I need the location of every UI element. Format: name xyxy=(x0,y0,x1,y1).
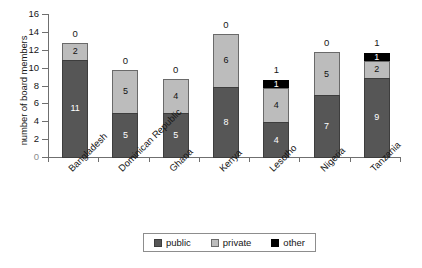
legend-label: other xyxy=(283,237,305,248)
y-tick-8: 8 xyxy=(42,86,48,87)
bar-top-label: 0 xyxy=(163,64,189,75)
y-tick-label: 16 xyxy=(28,8,39,19)
y-tick-14: 14 xyxy=(42,32,48,33)
legend-swatch-private xyxy=(211,239,219,247)
legend-item-other[interactable]: other xyxy=(271,237,305,248)
y-tick-label: 4 xyxy=(34,115,39,126)
bar-top-label: 0 xyxy=(314,37,340,48)
y-tick-16: 16 xyxy=(42,14,48,15)
y-tick-6: 6 xyxy=(42,103,48,104)
bar-segment-value: 5 xyxy=(173,131,178,140)
y-tick-10: 10 xyxy=(42,68,48,69)
legend-swatch-other xyxy=(271,239,279,247)
x-tick xyxy=(249,157,250,162)
bar-segment-private[interactable]: 5 xyxy=(314,52,340,97)
bar-nigeria[interactable]: 57 xyxy=(314,52,340,157)
bar-segment-value: 4 xyxy=(274,101,279,110)
y-tick-2: 2 xyxy=(42,139,48,140)
x-tick xyxy=(350,157,351,162)
bar-top-label: 0 xyxy=(62,28,88,39)
bar-top-label: 0 xyxy=(213,19,239,30)
x-tick xyxy=(149,157,150,162)
bar-segment-value: 5 xyxy=(324,70,329,79)
y-axis-line xyxy=(48,14,49,157)
bar-top-label: 0 xyxy=(112,55,138,66)
bar-segment-value: 5 xyxy=(123,87,128,96)
x-tick xyxy=(400,157,401,162)
bar-lesotho[interactable]: 144 xyxy=(263,80,289,157)
bar-segment-private[interactable]: 2 xyxy=(62,43,88,61)
x-tick xyxy=(48,157,49,162)
legend-swatch-public xyxy=(154,239,162,247)
legend-item-public[interactable]: public xyxy=(154,237,191,248)
chart-legend: publicprivateother xyxy=(143,233,316,252)
bar-segment-public[interactable]: 11 xyxy=(62,60,88,158)
bar-segment-value: 8 xyxy=(223,118,228,127)
y-tick-label: 6 xyxy=(34,97,39,108)
bar-segment-private[interactable]: 4 xyxy=(263,88,289,124)
bar-segment-value: 4 xyxy=(274,136,279,145)
bar-kenya[interactable]: 68 xyxy=(213,34,239,157)
y-axis-title: number of board members xyxy=(18,21,29,161)
legend-label: public xyxy=(166,237,191,248)
y-tick-4: 4 xyxy=(42,121,48,122)
stacked-bar-chart: number of board members 0246810121416 21… xyxy=(0,0,422,268)
bar-top-label: 1 xyxy=(364,37,390,48)
bar-segment-value: 6 xyxy=(223,56,228,65)
bar-segment-private[interactable]: 6 xyxy=(213,34,239,88)
x-tick xyxy=(299,157,300,162)
y-tick-label: 8 xyxy=(34,80,39,91)
y-tick-label: 2 xyxy=(34,133,39,144)
x-tick xyxy=(98,157,99,162)
bar-segment-private[interactable]: 5 xyxy=(112,70,138,115)
bar-segment-value: 9 xyxy=(374,113,379,122)
y-tick-label: 12 xyxy=(28,44,39,55)
bar-segment-value: 4 xyxy=(173,92,178,101)
bar-dominican-republic[interactable]: 55 xyxy=(112,70,138,157)
x-tick xyxy=(199,157,200,162)
legend-label: private xyxy=(223,237,252,248)
legend-item-private[interactable]: private xyxy=(211,237,252,248)
y-tick-label: 10 xyxy=(28,62,39,73)
bar-segment-value: 7 xyxy=(324,122,329,131)
bar-tanzania[interactable]: 129 xyxy=(364,53,390,157)
bar-top-label: 1 xyxy=(263,64,289,75)
bar-segment-value: 2 xyxy=(374,65,379,74)
bar-segment-value: 5 xyxy=(123,131,128,140)
bar-segment-value: 11 xyxy=(70,104,79,113)
bar-segment-value: 2 xyxy=(73,47,78,56)
bar-bangladesh[interactable]: 211 xyxy=(62,43,88,157)
bar-segment-public[interactable]: 9 xyxy=(364,78,390,158)
y-tick-12: 12 xyxy=(42,50,48,51)
bar-segment-private[interactable]: 2 xyxy=(364,61,390,79)
y-tick-label: 14 xyxy=(28,26,39,37)
y-tick-label: 0 xyxy=(34,151,39,162)
